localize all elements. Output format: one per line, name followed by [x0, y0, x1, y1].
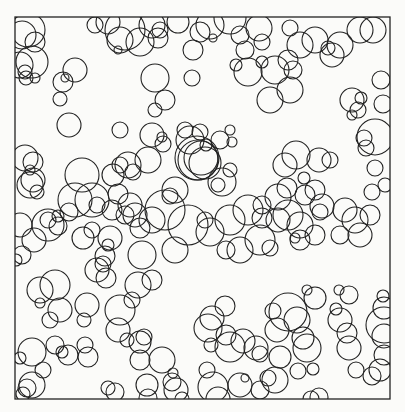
- circle: [140, 123, 164, 147]
- circle: [53, 92, 67, 106]
- circle-set: [7, 2, 402, 411]
- circle: [139, 207, 165, 233]
- circle: [356, 130, 372, 146]
- circle: [287, 212, 313, 238]
- circle: [360, 205, 380, 225]
- circle: [277, 77, 303, 103]
- circle: [234, 58, 262, 86]
- circle: [23, 152, 43, 172]
- figure-canvas: [0, 0, 405, 412]
- circle: [331, 226, 349, 244]
- circle: [292, 327, 314, 349]
- circle: [334, 285, 344, 295]
- circle: [287, 32, 313, 58]
- circle: [35, 362, 51, 378]
- circle: [204, 338, 218, 352]
- circle: [233, 195, 263, 225]
- circle: [19, 372, 45, 398]
- circle: [84, 222, 100, 238]
- circle: [215, 296, 235, 316]
- circle: [241, 374, 249, 382]
- circle: [196, 218, 224, 246]
- circle: [155, 90, 175, 110]
- circle: [265, 184, 291, 210]
- circle: [265, 303, 281, 319]
- circle: [290, 363, 306, 379]
- circle: [183, 40, 203, 60]
- circle: [14, 352, 26, 364]
- circle: [254, 34, 270, 50]
- circle: [168, 205, 208, 245]
- circle: [302, 27, 328, 53]
- circle: [184, 70, 200, 86]
- circle: [244, 336, 268, 360]
- circle: [124, 292, 140, 308]
- circle: [348, 362, 364, 378]
- circle: [139, 389, 157, 407]
- circle: [177, 122, 193, 138]
- circle: [58, 345, 78, 365]
- circle: [148, 103, 162, 117]
- circle: [215, 205, 245, 235]
- circle: [236, 41, 254, 59]
- circle: [56, 346, 68, 358]
- circle: [328, 308, 352, 332]
- circle: [40, 270, 70, 300]
- circle: [106, 318, 130, 342]
- circle: [211, 178, 225, 192]
- circle: [61, 74, 69, 82]
- circle: [265, 318, 289, 342]
- circle: [373, 297, 395, 319]
- circle: [77, 313, 91, 327]
- circle-packing-figure: [0, 0, 405, 412]
- circle: [46, 336, 64, 354]
- circle: [269, 346, 291, 368]
- circle: [123, 203, 147, 227]
- circle: [307, 148, 331, 172]
- circle: [57, 113, 81, 137]
- circle: [48, 298, 72, 322]
- circle: [142, 270, 162, 290]
- circle: [130, 218, 150, 238]
- circle: [340, 286, 358, 304]
- circle: [8, 213, 32, 237]
- circle: [120, 333, 134, 347]
- circle: [77, 337, 93, 353]
- circle: [200, 139, 212, 151]
- circle: [304, 287, 326, 309]
- circle: [105, 295, 135, 325]
- circle: [364, 184, 380, 200]
- circle: [163, 373, 181, 391]
- circle: [357, 119, 393, 155]
- circle: [282, 20, 298, 36]
- circle: [337, 336, 361, 360]
- circle: [372, 71, 390, 89]
- circle: [333, 198, 357, 222]
- circle: [377, 290, 389, 302]
- circle: [42, 312, 58, 328]
- circle: [214, 2, 246, 34]
- circle: [192, 124, 208, 140]
- circle: [225, 125, 235, 135]
- circle: [262, 240, 278, 256]
- circle: [167, 11, 189, 33]
- circle: [278, 50, 298, 70]
- circle: [366, 307, 402, 343]
- circle: [199, 362, 215, 378]
- circle: [32, 209, 64, 241]
- circle: [367, 160, 383, 176]
- circle: [128, 241, 156, 269]
- circle: [141, 64, 169, 92]
- circle: [282, 141, 310, 169]
- circle: [145, 190, 185, 230]
- circle: [217, 241, 235, 259]
- circle: [149, 347, 175, 373]
- circle: [11, 13, 45, 47]
- circle: [135, 147, 161, 173]
- circle: [87, 17, 103, 33]
- circle: [112, 122, 128, 138]
- circle: [8, 21, 36, 49]
- circle: [257, 87, 283, 113]
- circle: [342, 207, 368, 233]
- circle: [327, 32, 353, 58]
